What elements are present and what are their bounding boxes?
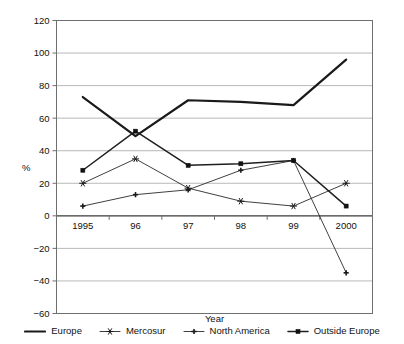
- series-line-0: [83, 60, 346, 137]
- legend-item-outside-europe[interactable]: Outside Europe: [287, 326, 380, 337]
- y-tick-label-100: 100: [34, 47, 50, 58]
- square-marker-icon: [287, 326, 309, 337]
- datapoint-3-2: [186, 163, 190, 167]
- datapoint-3-0: [81, 168, 85, 172]
- legend-label: Outside Europe: [314, 326, 380, 336]
- y-tick-label--60: −60: [33, 308, 49, 319]
- line-swatch-icon: [24, 326, 46, 337]
- chart-plot-area: −60−40−200204060801001201995969798992000…: [0, 0, 404, 344]
- legend-label: Mercosur: [126, 326, 166, 336]
- y-tick-label-20: 20: [39, 178, 50, 189]
- y-tick-label-80: 80: [39, 80, 50, 91]
- plus-marker-icon: [183, 326, 205, 337]
- legend-label: Europe: [51, 326, 82, 336]
- y-tick-label--40: −40: [33, 275, 49, 286]
- series-europe: [83, 60, 346, 137]
- legend-label: North America: [210, 326, 270, 336]
- x-tick-label-96: 96: [130, 220, 141, 231]
- datapoint-3-1: [134, 129, 138, 133]
- x-tick-label-97: 97: [183, 220, 194, 231]
- x-tick-label-1995: 1995: [72, 220, 93, 231]
- x-tick-label-99: 99: [288, 220, 299, 231]
- square-marker-icon-marker: [296, 329, 300, 333]
- plot-frame: [57, 21, 373, 314]
- legend-item-europe[interactable]: Europe: [24, 326, 82, 337]
- chart-legend: EuropeMercosurNorth AmericaOutside Europ…: [0, 322, 404, 340]
- y-tick-label-0: 0: [44, 210, 49, 221]
- y-tick-label-120: 120: [34, 15, 50, 26]
- series-mercosur: [79, 156, 350, 209]
- y-tick-label-60: 60: [39, 113, 50, 124]
- x-tick-label-2000: 2000: [336, 220, 357, 231]
- datapoint-3-4: [292, 158, 296, 162]
- datapoint-3-3: [239, 162, 243, 166]
- legend-item-mercosur[interactable]: Mercosur: [99, 326, 166, 337]
- series-line-1: [83, 159, 346, 206]
- datapoint-3-5: [344, 204, 348, 208]
- y-tick-label-40: 40: [39, 145, 50, 156]
- star-marker-icon: [99, 326, 121, 337]
- legend-item-north-america[interactable]: North America: [183, 326, 270, 337]
- y-axis-title: %: [22, 162, 31, 173]
- line-chart: −60−40−200204060801001201995969798992000…: [0, 0, 404, 344]
- x-tick-label-98: 98: [236, 220, 247, 231]
- series-outside-europe: [81, 129, 348, 208]
- y-tick-label--20: −20: [33, 243, 49, 254]
